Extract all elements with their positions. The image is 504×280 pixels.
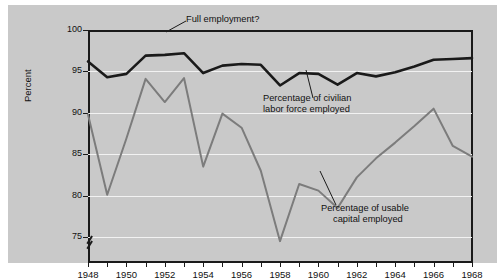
plot-area: 7580859095100 19481950195219541956195819… [88,30,472,237]
annotation-capital-line2: capital employed [333,214,403,226]
y-axis-title: Percent [22,69,33,102]
x-tick-label-1948: 1948 [73,269,103,280]
chart-figure: Percent 7580859095100 194819501952195419… [8,5,497,263]
annotation-full-employment: Full employment? [186,14,259,26]
x-tick-label-1952: 1952 [150,269,180,280]
y-tick-label-95: 95 [54,65,82,75]
y-tick-label-80: 80 [54,190,82,200]
annotation-leader-lines [88,30,488,265]
leader-line-full-employment [166,21,186,32]
y-tick-label-85: 85 [54,148,82,158]
leader-line-capital [320,171,336,205]
x-tick-label-1958: 1958 [265,269,295,280]
x-tick-label-1954: 1954 [188,269,218,280]
y-tick-label-75: 75 [54,231,82,241]
x-tick-label-1960: 1960 [303,269,333,280]
x-tick-label-1968: 1968 [457,269,487,280]
y-tick-label-90: 90 [54,107,82,117]
x-tick-label-1962: 1962 [342,269,372,280]
x-tick-label-1966: 1966 [419,269,449,280]
annotation-civilian-line1: Percentage of civilian [263,93,351,105]
x-tick-label-1964: 1964 [380,269,410,280]
annotation-capital-line1: Percentage of usable [321,203,409,215]
x-tick-label-1950: 1950 [111,269,141,280]
y-tick-label-100: 100 [54,24,82,34]
annotation-civilian-line2: labor force employed [263,104,350,116]
x-tick-label-1956: 1956 [227,269,257,280]
